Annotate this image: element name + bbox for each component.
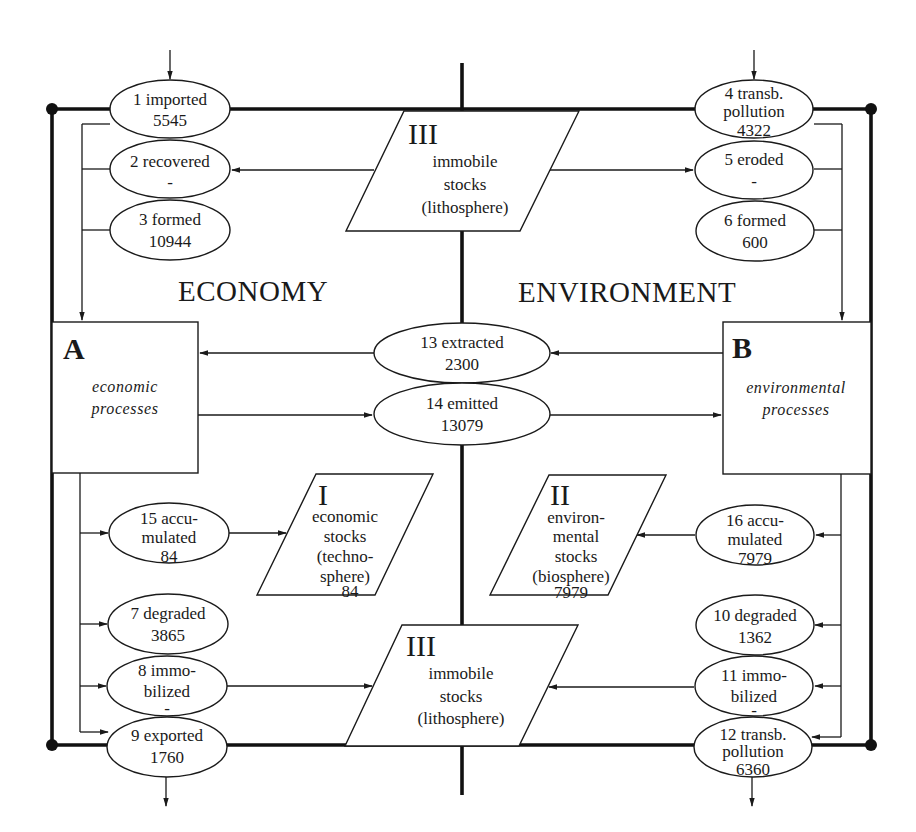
svg-text:1760: 1760 bbox=[150, 748, 184, 767]
svg-text:16 accu-: 16 accu- bbox=[726, 511, 784, 530]
svg-text:2300: 2300 bbox=[445, 355, 479, 374]
svg-text:4 transb.: 4 transb. bbox=[725, 84, 784, 103]
corner-dot-top-left bbox=[46, 103, 58, 115]
svg-text:immobile: immobile bbox=[428, 664, 493, 683]
svg-text:-: - bbox=[164, 699, 170, 718]
stock-immobile-bottom: III immobile stocks (lithosphere) bbox=[345, 625, 578, 746]
svg-text:15 accu-: 15 accu- bbox=[140, 509, 198, 528]
svg-text:mental: mental bbox=[553, 527, 600, 546]
svg-text:II: II bbox=[550, 478, 570, 511]
svg-text:4322: 4322 bbox=[737, 121, 771, 140]
svg-text:stocks: stocks bbox=[444, 175, 487, 194]
svg-text:84: 84 bbox=[342, 582, 360, 601]
svg-text:-: - bbox=[167, 173, 173, 192]
svg-text:3865: 3865 bbox=[151, 626, 185, 645]
flow-12-transb-pollution: 12 transb. pollution 6360 bbox=[694, 717, 812, 779]
svg-text:13 extracted: 13 extracted bbox=[420, 333, 504, 352]
svg-text:mulated: mulated bbox=[728, 530, 783, 549]
svg-text:stocks: stocks bbox=[440, 687, 483, 706]
corner-dot-top-right bbox=[865, 103, 877, 115]
svg-text:5545: 5545 bbox=[153, 111, 187, 130]
svg-text:84: 84 bbox=[161, 547, 179, 566]
svg-text:economic: economic bbox=[92, 378, 158, 395]
flow-11-immobilized: 11 immo- bilized - bbox=[695, 656, 813, 720]
svg-text:(lithosphere): (lithosphere) bbox=[418, 709, 505, 728]
svg-text:6 formed: 6 formed bbox=[724, 211, 786, 230]
heading-economy: ECONOMY bbox=[178, 275, 328, 307]
flow-10-degraded: 10 degraded 1362 bbox=[696, 595, 814, 655]
svg-text:III: III bbox=[406, 629, 436, 662]
svg-text:600: 600 bbox=[742, 233, 768, 252]
svg-text:pollution: pollution bbox=[722, 742, 784, 761]
svg-text:pollution: pollution bbox=[723, 102, 785, 121]
svg-text:7 degraded: 7 degraded bbox=[130, 604, 206, 623]
svg-text:processes: processes bbox=[90, 400, 158, 418]
flow-16-accumulated: 16 accu- mulated 7979 bbox=[696, 505, 814, 568]
svg-text:immobile: immobile bbox=[432, 152, 497, 171]
svg-text:9 exported: 9 exported bbox=[131, 726, 204, 745]
svg-text:11 immo-: 11 immo- bbox=[721, 666, 787, 685]
stock-environmental: II environ- mental stocks (biosphere) 79… bbox=[490, 475, 666, 602]
svg-text:8 immo-: 8 immo- bbox=[138, 661, 196, 680]
process-box-a: A economic processes bbox=[52, 322, 198, 473]
svg-text:-: - bbox=[751, 172, 757, 191]
flow-6-formed: 6 formed 600 bbox=[696, 201, 814, 261]
flow-9-exported: 9 exported 1760 bbox=[107, 717, 227, 777]
svg-text:7979: 7979 bbox=[738, 549, 772, 568]
flow-13-extracted: 13 extracted 2300 bbox=[374, 323, 550, 383]
svg-text:10 degraded: 10 degraded bbox=[713, 606, 797, 625]
stock-roman: III bbox=[408, 117, 438, 150]
svg-text:7979: 7979 bbox=[554, 583, 588, 602]
svg-text:stocks: stocks bbox=[324, 527, 367, 546]
svg-text:environ-: environ- bbox=[547, 508, 605, 527]
flow-1-imported: 1 imported 5545 bbox=[110, 80, 230, 138]
svg-text:processes: processes bbox=[761, 401, 829, 419]
svg-text:6360: 6360 bbox=[736, 760, 770, 779]
svg-text:A: A bbox=[63, 332, 85, 365]
svg-text:1362: 1362 bbox=[738, 628, 772, 647]
svg-text:2 recovered: 2 recovered bbox=[130, 152, 210, 171]
svg-text:5 eroded: 5 eroded bbox=[724, 150, 784, 169]
svg-text:14 emitted: 14 emitted bbox=[426, 394, 499, 413]
svg-text:13079: 13079 bbox=[441, 416, 484, 435]
svg-text:(techno-: (techno- bbox=[317, 547, 374, 566]
svg-text:mulated: mulated bbox=[142, 528, 197, 547]
stock-immobile-top: III immobile stocks (lithosphere) bbox=[346, 111, 579, 231]
material-flow-diagram: III immobile stocks (lithosphere) I econ… bbox=[0, 0, 916, 832]
svg-text:10944: 10944 bbox=[149, 232, 192, 251]
stock-economic: I economic stocks (techno- sphere) 84 bbox=[257, 474, 433, 601]
process-box-b: B environmental processes bbox=[723, 322, 871, 474]
svg-text:(lithosphere): (lithosphere) bbox=[422, 198, 509, 217]
heading-environment: ENVIRONMENT bbox=[518, 276, 736, 308]
flow-4-transb-pollution: 4 transb. pollution 4322 bbox=[695, 80, 813, 140]
svg-text:economic: economic bbox=[312, 507, 379, 526]
svg-text:stocks: stocks bbox=[555, 547, 598, 566]
flow-14-emitted: 14 emitted 13079 bbox=[374, 383, 550, 445]
flow-5-eroded: 5 eroded - bbox=[695, 141, 813, 199]
svg-text:environmental: environmental bbox=[746, 379, 846, 396]
svg-text:1 imported: 1 imported bbox=[133, 90, 208, 109]
corner-dot-bottom-right bbox=[865, 739, 877, 751]
svg-text:3 formed: 3 formed bbox=[139, 210, 201, 229]
corner-dot-bottom-left bbox=[46, 739, 58, 751]
svg-text:B: B bbox=[732, 331, 752, 364]
flow-8-immobilized: 8 immo- bilized - bbox=[107, 656, 227, 718]
flow-2-recovered: 2 recovered - bbox=[110, 140, 230, 198]
flow-15-accumulated: 15 accu- mulated 84 bbox=[109, 503, 229, 566]
flow-3-formed: 3 formed 10944 bbox=[110, 200, 230, 260]
flow-7-degraded: 7 degraded 3865 bbox=[108, 594, 228, 654]
